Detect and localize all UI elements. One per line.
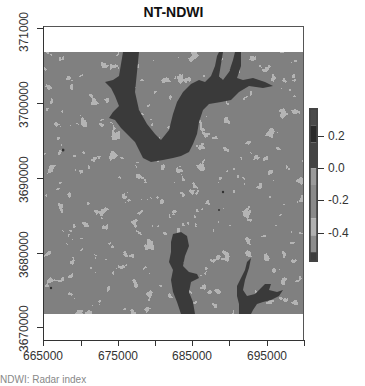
colorbar-tick [318, 200, 324, 201]
x-tick-label: 695000 [247, 349, 287, 363]
colorbar-tick [318, 168, 324, 169]
y-tick [37, 253, 43, 254]
y-tick-label: 3690000 [17, 156, 31, 203]
y-tick [37, 178, 43, 179]
x-tick [267, 340, 268, 346]
colorbar-label: -0.4 [328, 226, 349, 240]
chart-title: NT-NDWI [43, 4, 304, 20]
colorbar-label: -0.2 [328, 193, 349, 207]
y-tick-label: 3680000 [17, 231, 31, 278]
x-tick [155, 340, 156, 346]
colorbar-label: 0.0 [328, 161, 345, 175]
x-tick [81, 340, 82, 346]
figure-caption: NDWI: Radar index [0, 374, 86, 385]
x-tick [304, 340, 305, 346]
x-tick [43, 340, 44, 346]
y-tick [37, 327, 43, 328]
y-tick [37, 103, 43, 104]
x-tick [192, 340, 193, 346]
colorbar-legend [309, 108, 318, 262]
x-tick-label: 675000 [98, 349, 138, 363]
colorbar-tick [318, 233, 324, 234]
y-tick-label: 3670000 [17, 305, 31, 352]
colorbar-tick [318, 136, 324, 137]
y-tick-label: 371000 [17, 12, 31, 52]
x-tick-label: 685000 [172, 349, 212, 363]
y-tick [37, 28, 43, 29]
y-tick-label: 3700000 [17, 81, 31, 128]
colorbar-label: 0.2 [328, 129, 345, 143]
x-axis-line [43, 340, 305, 341]
x-tick [229, 340, 230, 346]
x-tick [118, 340, 119, 346]
plot-frame [43, 26, 304, 340]
